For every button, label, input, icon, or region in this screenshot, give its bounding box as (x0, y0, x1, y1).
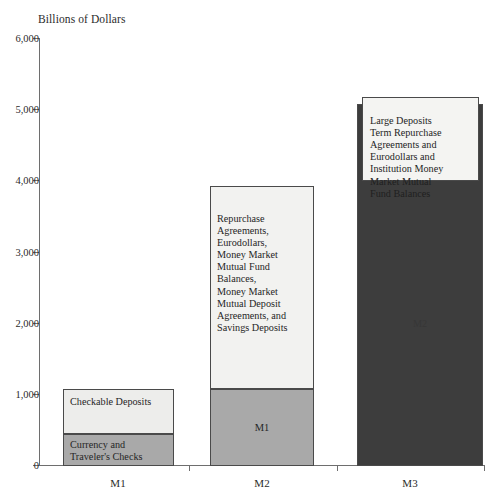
x-tick-1 (189, 465, 190, 471)
bar-m2-label-other-deposits: Repurchase Agreements, Eurodollars, Mone… (217, 213, 308, 334)
bar-m1-label-currency-travelers-checks: Currency and Traveler's Checks (70, 439, 168, 463)
x-axis-label-m3: M3 (402, 477, 417, 489)
y-tick-label-4000: 4,000 (9, 175, 39, 186)
bar-m2-label-m1: M1 (211, 421, 313, 433)
y-tick-label-3000: 3,000 (9, 247, 39, 258)
plot-area: 6,000 5,000 4,000 3,000 2,000 1,000 0 (0, 0, 492, 501)
x-tick-3 (484, 465, 485, 471)
y-tick-label-5000: 5,000 (9, 104, 39, 115)
bar-m1-segment-checkable-deposits[interactable]: Checkable Deposits (63, 389, 174, 434)
y-axis-line (39, 38, 40, 466)
bar-m1-label-checkable-deposits: Checkable Deposits (70, 396, 168, 408)
x-axis-label-m1: M1 (110, 477, 125, 489)
bar-m2-segment-other-deposits[interactable]: Repurchase Agreements, Eurodollars, Mone… (210, 186, 314, 389)
x-axis-label-m2: M2 (254, 477, 269, 489)
stacked-bar-chart: Billions of Dollars 6,000 5,000 4,000 3,… (0, 0, 492, 501)
bar-m1-segment-currency-travelers-checks[interactable]: Currency and Traveler's Checks (63, 434, 174, 466)
y-tick-label-2000: 2,000 (9, 318, 39, 329)
bar-m3-label-m2: M2 (358, 318, 482, 330)
x-tick-2 (337, 465, 338, 471)
bar-m2-segment-m1[interactable]: M1 (210, 389, 314, 466)
y-tick-label-0: 0 (9, 460, 39, 471)
y-tick-label-1000: 1,000 (9, 389, 39, 400)
bar-m3-callout-large-deposits[interactable]: Large Deposits Term Repurchase Agreement… (362, 97, 479, 181)
y-tick-label-6000: 6,000 (9, 33, 39, 44)
